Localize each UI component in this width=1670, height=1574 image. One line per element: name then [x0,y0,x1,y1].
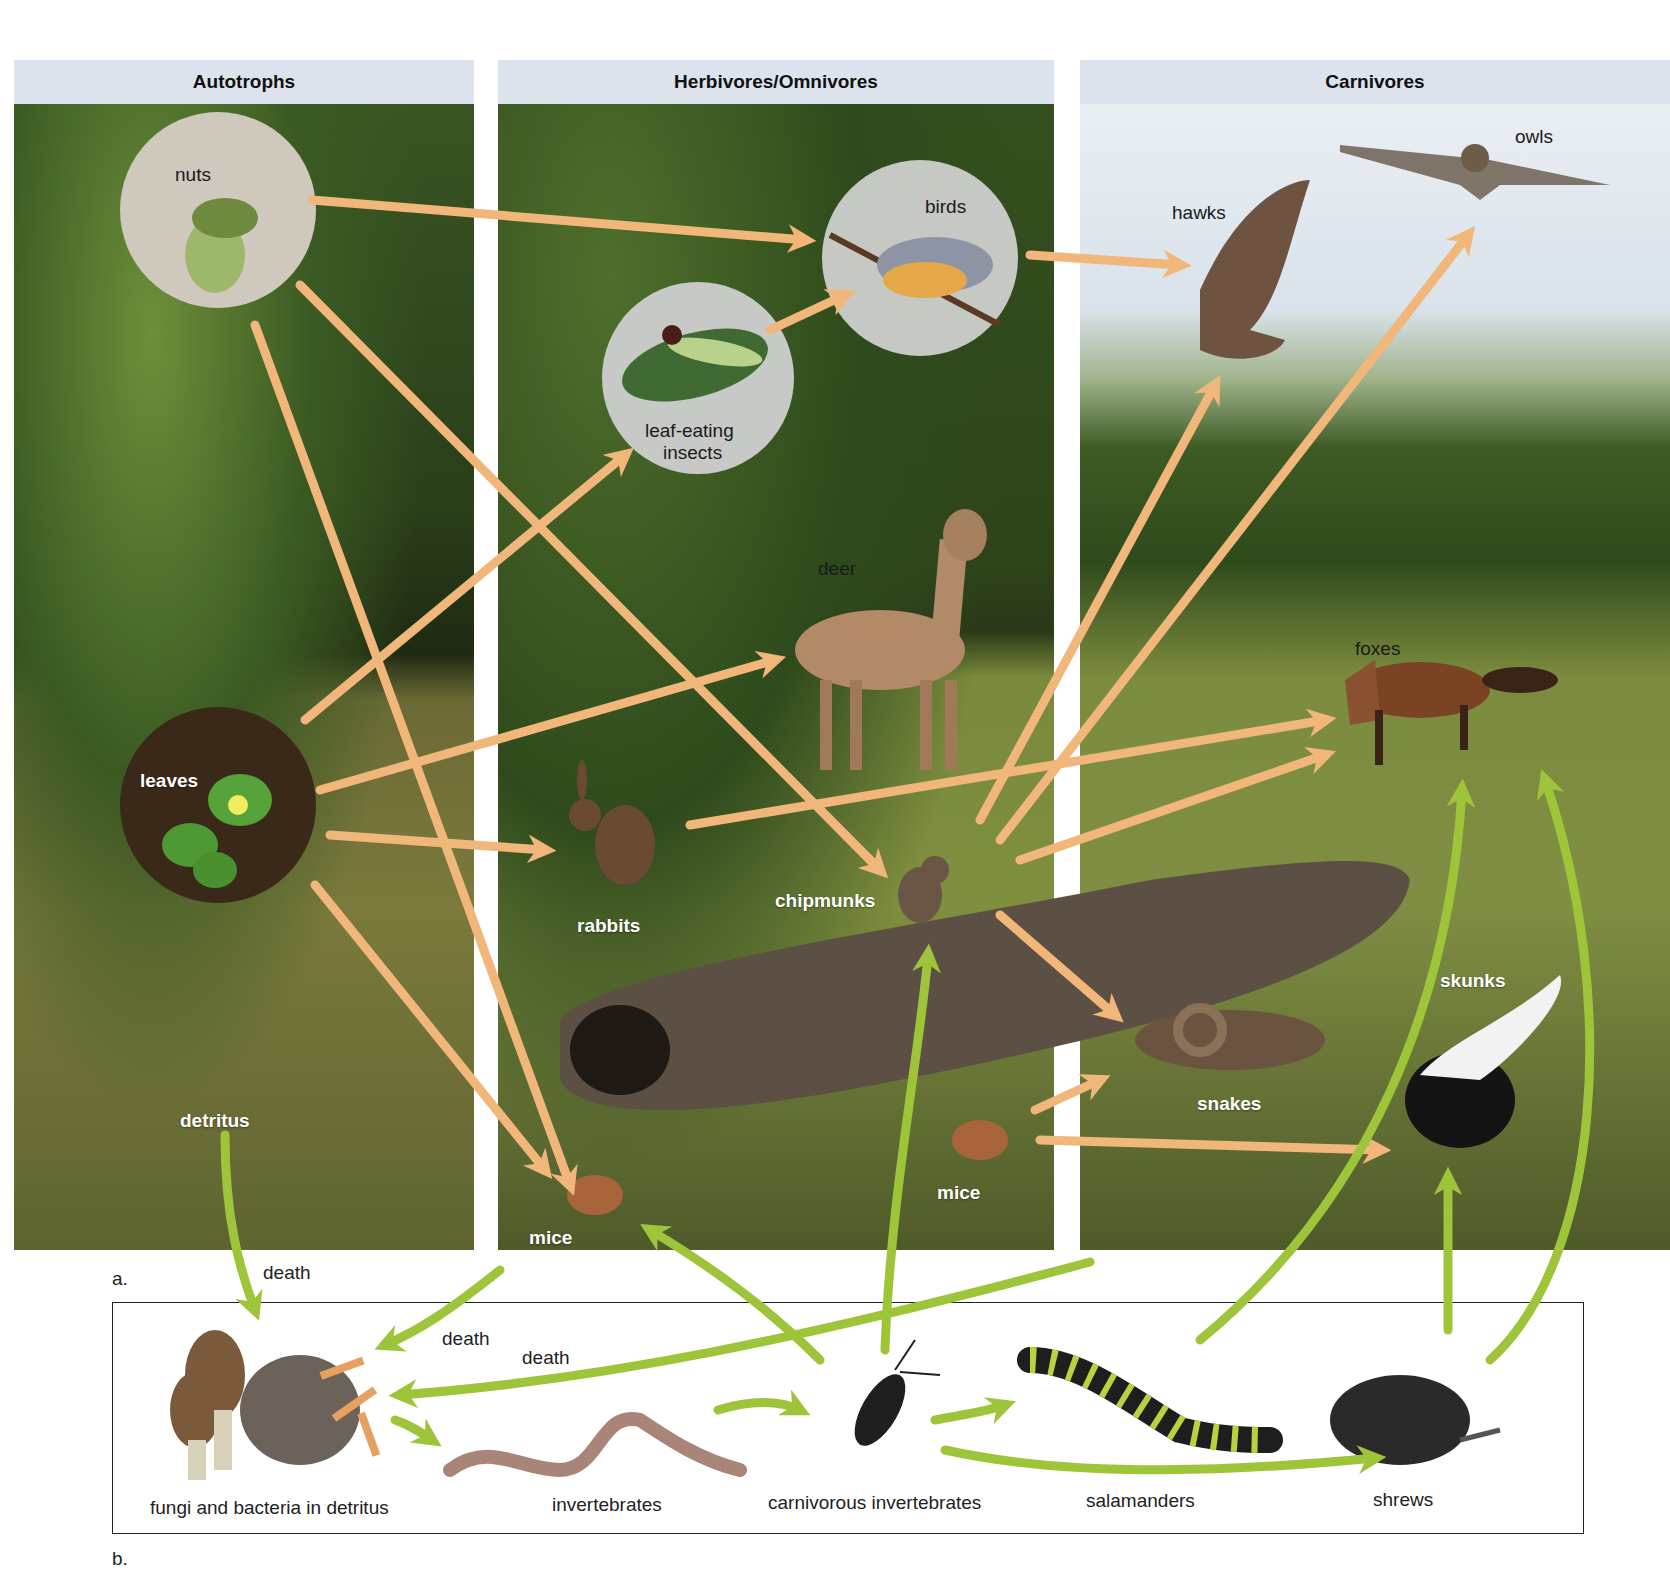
label-hawks: hawks [1172,202,1226,224]
label-skunks: skunks [1440,970,1505,992]
label-shrews: shrews [1373,1489,1433,1511]
label-leaves: leaves [140,770,198,792]
label-mice-left: mice [529,1227,572,1249]
panel-header-herbivores: Herbivores/Omnivores [498,60,1054,104]
label-snakes: snakes [1197,1093,1261,1115]
part-label-b: b. [112,1548,128,1570]
label-insects: insects [663,442,722,464]
label-invertebrates: invertebrates [552,1494,662,1516]
label-chipmunks: chipmunks [775,890,875,912]
panel-herbivores-omnivores: Herbivores/Omnivores [498,60,1054,1250]
meadow-background [498,104,1054,1250]
label-foxes: foxes [1355,638,1400,660]
label-death-1: death [263,1262,311,1284]
panel-autotrophs: Autotrophs [14,60,474,1250]
panel-header-autotrophs: Autotrophs [14,60,474,104]
label-rabbits: rabbits [577,915,640,937]
label-carnivorous-invertebrates: carnivorous invertebrates [768,1492,981,1514]
forest-background [14,104,474,1250]
label-mice-right: mice [937,1182,980,1204]
label-leaf-eating: leaf-eating [645,420,734,442]
sky-meadow-background [1080,104,1670,1250]
label-salamanders: salamanders [1086,1490,1195,1512]
label-deer: deer [818,558,856,580]
panel-header-carnivores: Carnivores [1080,60,1670,104]
label-birds: birds [925,196,966,218]
label-nuts: nuts [175,164,211,186]
label-detritus: detritus [180,1110,250,1132]
label-death-3: death [522,1347,570,1369]
label-owls: owls [1515,126,1553,148]
label-death-2: death [442,1328,490,1350]
label-fungi-bacteria: fungi and bacteria in detritus [150,1497,389,1519]
part-label-a: a. [112,1268,128,1290]
